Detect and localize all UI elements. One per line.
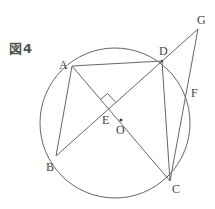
segment-ad (72, 61, 162, 66)
right-angle-marker (101, 94, 116, 103)
segment-gc (170, 29, 198, 181)
diagram-canvas: A B C D E F G O (0, 0, 215, 209)
label-g: G (197, 13, 206, 27)
segment-bg (56, 29, 198, 156)
label-a: A (59, 58, 68, 72)
label-b: B (46, 160, 54, 174)
geometry-figure: 図4 A B C D E F G O (0, 0, 215, 209)
label-c: C (172, 182, 180, 196)
label-e: E (102, 113, 109, 127)
figure-title: 図4 (9, 38, 33, 57)
segment-ab (56, 66, 72, 156)
segment-dc (162, 61, 170, 181)
label-o: O (116, 123, 125, 137)
label-f: F (191, 86, 198, 100)
point-d-dot (161, 60, 163, 62)
center-point-o (119, 118, 122, 121)
label-d: D (159, 44, 168, 58)
